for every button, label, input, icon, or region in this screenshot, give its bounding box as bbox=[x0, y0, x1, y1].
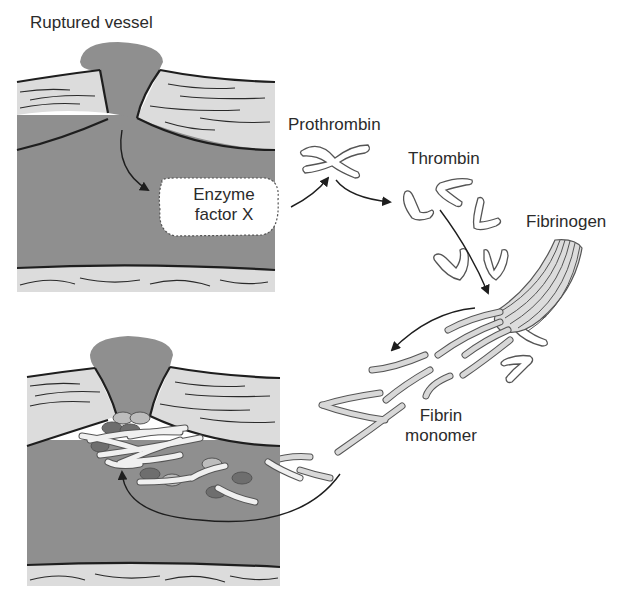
label-thrombin: Thrombin bbox=[408, 149, 480, 169]
label-prothrombin: Prothrombin bbox=[288, 115, 381, 135]
top-vessel bbox=[17, 42, 278, 292]
bottom-vessel bbox=[27, 336, 340, 586]
fibrin-monomers bbox=[268, 312, 510, 478]
label-fibrin-line2: monomer bbox=[396, 426, 486, 446]
diagram-canvas bbox=[0, 0, 633, 596]
arrow-prothrombin-to-thrombin bbox=[336, 180, 390, 202]
label-enzyme-line1: Enzyme bbox=[176, 185, 272, 205]
label-ruptured-vessel: Ruptured vessel bbox=[30, 13, 153, 33]
arrow-enzyme-to-prothrombin bbox=[291, 178, 328, 207]
vessel-wall-top-left bbox=[17, 70, 108, 115]
prothrombin-molecule bbox=[301, 145, 370, 178]
arrow-fibrinogen-to-fibrin bbox=[392, 308, 475, 350]
label-fibrin-monomer: Fibrin monomer bbox=[396, 406, 486, 446]
label-enzyme-factor-x: Enzyme factor X bbox=[176, 185, 272, 225]
label-enzyme-line2: factor X bbox=[176, 205, 272, 225]
label-fibrinogen: Fibrinogen bbox=[526, 212, 606, 232]
label-fibrin-line1: Fibrin bbox=[396, 406, 486, 426]
coagulation-diagram: Ruptured vessel Enzyme factor X Prothrom… bbox=[0, 0, 633, 596]
